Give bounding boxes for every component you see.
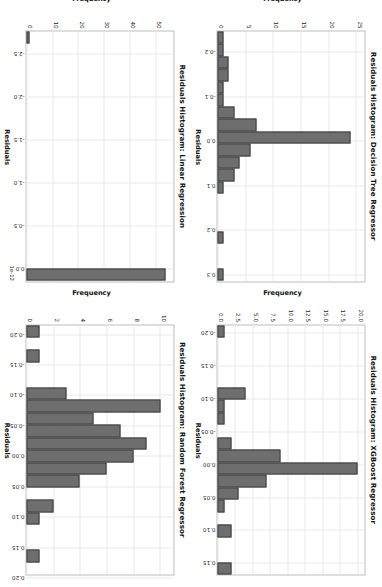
gridline-horizontal — [272, 31, 273, 281]
x-tick-label: 0.1 — [206, 182, 215, 188]
histogram-bar — [26, 399, 160, 411]
x-tick-label: -0.10 — [10, 391, 24, 397]
plot-area-xgboost: -0.20-0.15-0.10-0.050.000.050.100.150.02… — [216, 324, 365, 576]
y-tick-label: 4 — [79, 318, 85, 322]
plot-area-linear-regression: -2.5-2.0-1.5-1.0-0.50.0010203040501e-12 — [25, 30, 174, 282]
gridline-vertical — [26, 53, 173, 54]
gridline-vertical — [217, 96, 364, 97]
chart-title-random-forest: Residuals Histogram: Random Forest Regre… — [176, 298, 187, 582]
histogram-bar — [217, 462, 357, 474]
y-tick-label: 0 — [217, 24, 223, 28]
y-tick-label: 2.5 — [235, 313, 241, 322]
x-tick-label: 0.05 — [203, 494, 215, 500]
y-tick-label: 25 — [356, 21, 362, 28]
y-tick-label: 15.0 — [322, 309, 328, 321]
gridline-horizontal — [357, 325, 358, 575]
y-tick-label: 20 — [78, 21, 84, 28]
histogram-bar — [26, 349, 39, 361]
x-tick-label: -0.5 — [13, 222, 24, 228]
gridline-horizontal — [328, 31, 329, 281]
chart-title-linear-regression: Residuals Histogram: Linear Regression — [176, 4, 187, 288]
gridline-vertical — [217, 332, 364, 333]
gridline-vertical — [26, 96, 173, 97]
histogram-bar — [26, 412, 93, 424]
gridline-vertical — [217, 51, 364, 52]
gridline-vertical — [217, 365, 364, 366]
histogram-bar — [26, 512, 39, 524]
histogram-bar — [217, 474, 266, 486]
x-tick-label: 0.15 — [203, 559, 215, 565]
x-tick-label: 0.05 — [12, 483, 24, 489]
histogram-bar — [217, 412, 224, 424]
y-tick-label: 5.0 — [252, 313, 258, 322]
x-tick-label: -0.20 — [201, 329, 215, 335]
gridline-vertical — [217, 497, 364, 498]
gridline-vertical — [217, 431, 364, 432]
y-axis-label-linear-regression: Frequency — [72, 0, 111, 2]
histogram-bar — [217, 231, 223, 243]
histogram-bar — [26, 499, 53, 511]
histogram-bar — [26, 325, 39, 337]
y-tick-label: 10.0 — [287, 309, 293, 321]
histogram-bar — [217, 487, 238, 499]
gridline-horizontal — [322, 325, 323, 575]
gridline-vertical — [217, 274, 364, 275]
x-tick-label: -2.5 — [13, 50, 24, 56]
chart-panel-random-forest: Residuals Histogram: Random Forest Regre… — [0, 294, 191, 587]
y-tick-label: 8 — [133, 318, 139, 322]
x-tick-label: 0.15 — [12, 544, 24, 550]
plot-area-random-forest: -0.20-0.15-0.10-0.050.000.050.100.150.20… — [25, 324, 174, 576]
histogram-bar — [26, 437, 146, 449]
histogram-bar — [26, 474, 79, 486]
x-tick-label: -0.10 — [201, 395, 215, 401]
histogram-bar — [26, 268, 165, 280]
y-tick-label: 0.0 — [217, 313, 223, 322]
gridline-vertical — [26, 547, 173, 548]
gridline-horizontal — [300, 31, 301, 281]
gridline-horizontal — [26, 31, 27, 281]
figure-rotation-wrapper: Residuals Histogram: Decision Tree Regre… — [0, 0, 382, 587]
x-tick-label: 0.0 — [15, 265, 24, 271]
histogram-bar — [217, 499, 224, 511]
gridline-vertical — [26, 182, 173, 183]
gridline-horizontal — [78, 31, 79, 281]
histogram-bar — [217, 118, 256, 130]
histogram-bar — [26, 462, 106, 474]
gridline-vertical — [217, 529, 364, 530]
x-tick-label: 0.0 — [206, 137, 215, 143]
histogram-bar — [217, 81, 223, 93]
x-axis-label-xgboost: Residuals — [193, 294, 201, 587]
x-axis-label-random-forest: Residuals — [2, 294, 10, 587]
x-tick-label: 0.00 — [12, 452, 24, 458]
histogram-bar — [217, 143, 250, 155]
y-tick-label: 30 — [103, 21, 109, 28]
histogram-bar — [217, 56, 228, 68]
x-tick-label: -0.15 — [201, 362, 215, 368]
gridline-vertical — [26, 364, 173, 365]
histogram-bar — [217, 325, 224, 337]
histogram-bar — [217, 31, 223, 43]
x-tick-label: 0.20 — [12, 574, 24, 580]
x-tick-label: -0.05 — [10, 422, 24, 428]
y-tick-label: 0 — [26, 318, 32, 322]
y-tick-label: 2 — [53, 318, 59, 322]
histogram-bar — [217, 168, 234, 180]
x-tick-label: -0.20 — [10, 331, 24, 337]
gridline-horizontal — [287, 325, 288, 575]
y-tick-label: 10 — [272, 21, 278, 28]
histogram-bar — [217, 387, 245, 399]
x-tick-label: -0.1 — [204, 93, 215, 99]
x-axis-label-linear-regression: Residuals — [2, 0, 10, 294]
y-tick-label: 5 — [245, 24, 251, 28]
gridline-horizontal — [356, 31, 357, 281]
histogram-bar — [217, 437, 231, 449]
histogram-bar — [26, 387, 66, 399]
y-tick-label: 17.5 — [340, 309, 346, 321]
gridline-vertical — [217, 229, 364, 230]
x-tick-label: -0.2 — [204, 48, 215, 54]
y-tick-label: 7.5 — [270, 313, 276, 322]
histogram-bar — [217, 68, 228, 80]
gridline-horizontal — [129, 31, 130, 281]
gridline-horizontal — [155, 31, 156, 281]
histogram-bar — [217, 562, 231, 574]
